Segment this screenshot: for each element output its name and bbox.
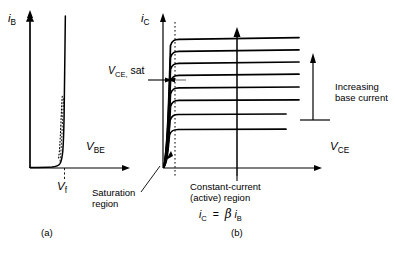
- panel-b-increasing-base-current-label: Increasing base current: [335, 82, 388, 104]
- panel-a-axes: [27, 10, 130, 171]
- panel-b-xaxis-arrow: [314, 165, 322, 171]
- collector-curve-8: [164, 38, 299, 167]
- panel-a-y-axis-label: iB: [8, 12, 16, 25]
- collector-curve-7: [164, 50, 299, 167]
- panel-b-active-region-label: Constant-current (active) region: [190, 182, 261, 204]
- panel-b-yaxis-arrow: [160, 13, 166, 22]
- panel-b-increasing-bracket: [300, 53, 330, 120]
- panel-b-collector-curves: [164, 38, 299, 167]
- collector-curve-2: [164, 114, 286, 167]
- collector-curve-1: [164, 129, 286, 167]
- bjt-characteristics-figure: iB VBE Vf (a) iC VCE VCE, sat Saturation…: [0, 0, 395, 255]
- panel-a-caption: (a): [41, 228, 53, 239]
- figure-vector-layer: [0, 0, 395, 255]
- panel-b-formula: iC = β iB: [199, 208, 242, 222]
- panel-b-axes: [160, 13, 322, 171]
- panel-b-caption: (b): [231, 228, 243, 239]
- panel-a-threshold-label: Vf: [57, 180, 67, 193]
- panel-b-saturation-leader: [141, 166, 160, 192]
- panel-b-vcesat-leader: [148, 77, 186, 82]
- panel-a-diode-curve: [30, 16, 65, 168]
- panel-a-x-axis-label: VBE: [86, 140, 105, 153]
- panel-b-y-axis-label: iC: [141, 12, 150, 25]
- panel-a-yaxis-arrow: [27, 10, 33, 18]
- panel-b-x-axis-label: VCE: [330, 140, 349, 153]
- collector-curve-4: [164, 87, 299, 167]
- panel-a-xaxis-arrow: [122, 165, 130, 171]
- collector-curve-3: [164, 100, 299, 167]
- panel-b-active-region-arrow: [234, 27, 241, 176]
- panel-b-saturation-region-label: Saturation region: [92, 188, 135, 210]
- panel-b-vcesat-label: VCE, sat: [108, 64, 145, 76]
